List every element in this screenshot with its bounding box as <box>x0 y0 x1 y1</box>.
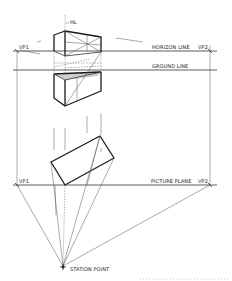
perspective-diagram: HL VP1 HORIZON LINE VP2 GROUND LINE VP1 … <box>0 0 232 281</box>
vp1-top-label: VP1 <box>19 44 29 50</box>
plan-projectors <box>54 113 101 150</box>
hl-marker <box>65 15 69 30</box>
ground-line-label: GROUND LINE <box>152 63 188 69</box>
station-point-label: STATION POINT <box>70 266 110 272</box>
station-rays <box>17 136 210 266</box>
vp1-bottom-label: VP1 <box>19 178 29 184</box>
vp2-top-label: VP2 <box>198 44 208 50</box>
horizon-line-label: HORIZON LINE <box>152 44 190 50</box>
hl-label: HL <box>70 19 77 25</box>
vp2-bottom-label: VP2 <box>198 178 208 184</box>
picture-plane-label: PICTURE PLANE <box>151 178 191 184</box>
lower-box <box>54 52 101 106</box>
upper-box <box>54 31 101 56</box>
